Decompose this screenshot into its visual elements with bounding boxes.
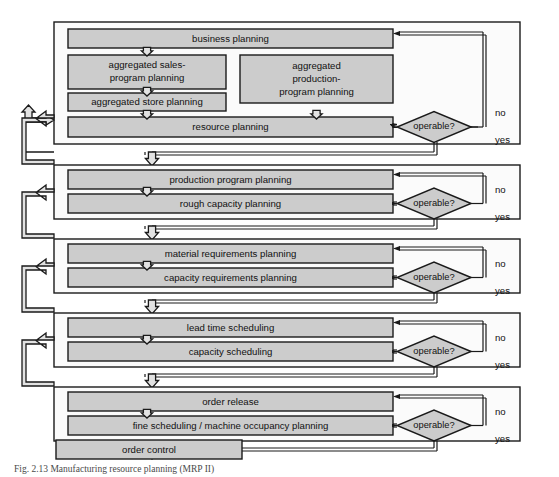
branch-no-5: no — [495, 406, 506, 417]
branch-yes-5: yes — [495, 433, 510, 444]
branch-yes-4: yes — [495, 359, 510, 370]
box-material-requirements-planning-label: material requirements planning — [165, 248, 297, 259]
box-lead-time-scheduling-label: lead time scheduling — [187, 322, 274, 333]
box-aggregated-production-program-planning-line3: program planning — [279, 86, 354, 97]
branch-no-1: no — [495, 107, 506, 118]
box-aggregated-production-program-planning-line1: aggregated — [292, 60, 341, 71]
box-fine-scheduling-machine-occupancy-planning-label: fine scheduling / machine occupancy plan… — [133, 420, 329, 431]
terminal-order-control[interactable]: order control — [56, 440, 242, 459]
branch-yes-2: yes — [495, 211, 510, 222]
stage-business-planning[interactable]: business planning aggregated sales- prog… — [54, 22, 520, 145]
feedback-rail-stage2 — [22, 185, 54, 238]
box-rough-capacity-planning-label: rough capacity planning — [180, 198, 281, 209]
box-production-program-planning-label: production program planning — [169, 174, 291, 185]
box-order-control-label: order control — [122, 444, 176, 455]
figure-caption: Fig. 2.13 Manufacturing resource plannin… — [14, 464, 214, 475]
decision-operable-4-label: operable? — [413, 346, 454, 356]
stage-production-program[interactable]: production program planning rough capaci… — [54, 165, 520, 222]
box-aggregated-sales-program-planning-line1: aggregated sales- — [109, 59, 186, 70]
box-order-release-label: order release — [202, 396, 259, 407]
feedback-rail-stage4 — [22, 333, 54, 386]
decision-operable-2-label: operable? — [413, 198, 454, 208]
box-aggregated-store-planning-label: aggregated store planning — [91, 96, 202, 107]
decision-operable-5-label: operable? — [413, 420, 454, 430]
connector-stage2-to-stage3 — [145, 219, 437, 241]
stage-requirements[interactable]: material requirements planning capacity … — [54, 239, 520, 296]
branch-no-2: no — [495, 184, 506, 195]
box-capacity-scheduling-label: capacity scheduling — [189, 346, 273, 357]
decision-operable-3-label: operable? — [413, 272, 454, 282]
decision-operable-1-label: operable? — [413, 121, 454, 131]
branch-yes-3: yes — [495, 285, 510, 296]
mrp2-flowchart: business planning aggregated sales- prog… — [0, 0, 559, 477]
box-capacity-requirements-planning-label: capacity requirements planning — [164, 272, 297, 283]
stage-scheduling[interactable]: lead time scheduling capacity scheduling… — [54, 313, 520, 370]
box-aggregated-production-program-planning-line2: production- — [293, 73, 341, 84]
branch-no-4: no — [495, 332, 506, 343]
branch-no-3: no — [495, 258, 506, 269]
connector-stage4-to-stage5 — [145, 367, 437, 389]
connector-stage3-to-stage4 — [145, 293, 437, 315]
stage-order-release[interactable]: order release fine scheduling / machine … — [54, 387, 520, 444]
branch-yes-1: yes — [495, 134, 510, 145]
box-business-planning-label: business planning — [192, 33, 269, 44]
box-resource-planning-label: resource planning — [192, 121, 268, 132]
feedback-rail-stage3 — [22, 259, 54, 312]
box-aggregated-sales-program-planning-line2: program planning — [110, 72, 185, 83]
